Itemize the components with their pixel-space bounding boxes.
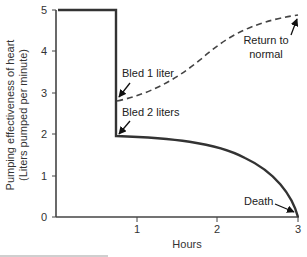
annotation-bled-2-liters: Bled 2 liters — [122, 106, 180, 118]
y-axis-title-line1: Pumping effectiveness of heart — [4, 40, 16, 191]
arrow-bled-1-liter — [119, 83, 130, 97]
y-axis-title-line2: (Liters pumped per minute) — [17, 49, 29, 181]
arrow-return-to-normal — [291, 19, 297, 35]
x-tick-label-2: 2 — [214, 223, 220, 235]
y-tick-label-3: 3 — [41, 87, 47, 99]
y-tick-label-0: 0 — [41, 211, 47, 223]
chart-canvas: 0 1 2 3 4 5 1 2 3 Hours Pumping effectiv… — [0, 0, 307, 257]
y-tick-label-1: 1 — [41, 170, 47, 182]
annotation-return-to-normal-line1: Return to — [243, 34, 288, 46]
x-tick-label-3: 3 — [295, 223, 301, 235]
x-axis-title: Hours — [172, 238, 202, 250]
annotation-death: Death — [244, 195, 273, 207]
annotation-bled-1-liter: Bled 1 liter — [122, 67, 174, 79]
y-tick-label-2: 2 — [41, 128, 47, 140]
x-tick-label-1: 1 — [134, 223, 140, 235]
y-axis-title: Pumping effectiveness of heart (Liters p… — [4, 40, 29, 191]
y-tick-label-5: 5 — [41, 4, 47, 16]
annotation-return-to-normal-line2: normal — [249, 48, 283, 60]
arrow-bled-2-liters — [119, 121, 130, 134]
y-tick-label-4: 4 — [41, 45, 47, 57]
arrow-death — [275, 204, 294, 212]
